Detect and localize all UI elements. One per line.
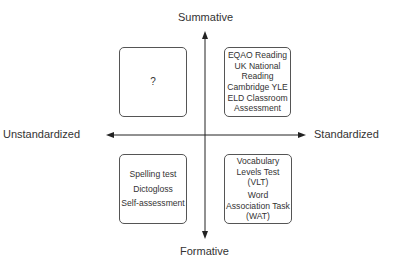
quadrant-item: Self-assessment xyxy=(121,198,185,209)
quadrant-top-left: ? xyxy=(119,47,187,117)
quadrant-item: UK National xyxy=(235,61,281,72)
quadrant-item: ? xyxy=(150,77,156,88)
axis-label-formative: Formative xyxy=(180,245,229,257)
quadrant-top-right: EQAO Reading UK National Reading Cambrid… xyxy=(224,47,291,117)
quadrant-item: Word xyxy=(248,190,268,201)
right-arrow-icon xyxy=(298,132,306,138)
quadrant-item: Cambridge YLE xyxy=(227,82,288,93)
quadrant-item: Reading xyxy=(241,71,273,82)
quadrant-item: ELD Classroom xyxy=(227,93,287,104)
quadrant-item: Assessment xyxy=(234,103,281,114)
quadrant-item: Vocabulary xyxy=(237,156,280,167)
axis-label-summative: Summative xyxy=(178,11,233,23)
axis-label-standardized: Standardized xyxy=(314,128,379,140)
axis-label-unstandardized: Unstandardized xyxy=(3,128,80,140)
quadrant-bottom-left: Spelling test Dictogloss Self-assessment xyxy=(119,154,187,224)
quadrant-item: Spelling test xyxy=(130,169,177,180)
quadrant-item: (WAT) xyxy=(246,211,270,222)
quadrant-item: Dictogloss xyxy=(133,184,173,195)
left-arrow-icon xyxy=(106,132,114,138)
quadrant-item: Association Task xyxy=(226,201,290,212)
down-arrow-icon xyxy=(202,231,208,239)
quadrant-bottom-right: Vocabulary Levels Test (VLT) Word Associ… xyxy=(224,154,292,224)
up-arrow-icon xyxy=(202,31,208,39)
quadrant-item: Levels Test (VLT) xyxy=(225,167,291,188)
quadrant-item: EQAO Reading xyxy=(228,50,287,61)
